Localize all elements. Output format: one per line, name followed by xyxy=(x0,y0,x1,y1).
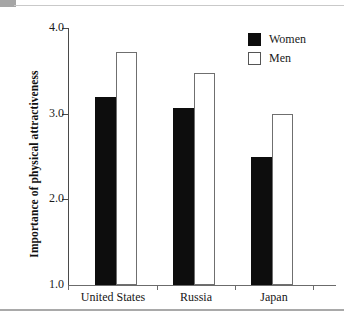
bar-women-japan[interactable] xyxy=(251,157,272,286)
y-tick-label: 3.0 xyxy=(49,106,64,121)
bar-chart-figure: Importance of physical attractiveness 4.… xyxy=(0,8,344,308)
y-tick-label: 2.0 xyxy=(49,191,64,206)
x-axis-line xyxy=(68,285,336,286)
chart-legend: Women Men xyxy=(248,30,340,68)
x-axis-label-japan: Japan xyxy=(236,290,312,305)
x-tick-mark xyxy=(68,285,69,290)
legend-swatch-filled-icon xyxy=(248,33,261,46)
bottom-divider-rule xyxy=(0,309,344,311)
figure-page: Importance of physical attractiveness 4.… xyxy=(0,0,344,321)
x-axis-label-united-states: United States xyxy=(70,290,156,305)
x-tick-mark xyxy=(313,285,314,290)
legend-swatch-hollow-icon xyxy=(248,52,261,65)
y-tick-label: 1.0 xyxy=(49,277,64,292)
y-tick-label: 4.0 xyxy=(49,20,64,35)
legend-item-women[interactable]: Women xyxy=(248,30,340,49)
bar-men-united-states[interactable] xyxy=(116,52,137,285)
x-axis-label-russia: Russia xyxy=(158,290,234,305)
bar-women-united-states[interactable] xyxy=(95,97,116,285)
legend-item-men[interactable]: Men xyxy=(248,49,340,68)
top-divider-rule xyxy=(14,5,344,6)
bar-women-russia[interactable] xyxy=(173,108,194,285)
legend-label-women: Women xyxy=(269,32,306,47)
legend-label-men: Men xyxy=(269,51,291,66)
y-axis-title: Importance of physical attractiveness xyxy=(28,44,40,284)
bar-men-japan[interactable] xyxy=(272,114,293,285)
bar-men-russia[interactable] xyxy=(194,73,215,285)
y-axis-line xyxy=(68,28,69,285)
